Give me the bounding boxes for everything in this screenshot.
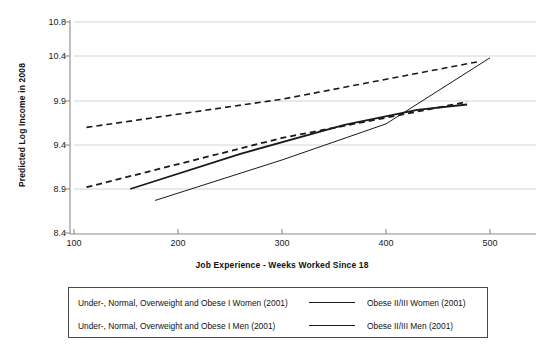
series-lines	[86, 58, 490, 201]
legend-row: Under-, Normal, Overweight and Obese I M…	[69, 313, 487, 338]
chart-figure: Predicted Log Income in 2008 10.8 10.4 9…	[0, 0, 552, 354]
tick-marks	[65, 22, 490, 234]
series-line	[130, 105, 467, 189]
legend-line-sample-solid-thick	[305, 302, 359, 304]
legend-line-sample-solid-thin	[305, 325, 359, 326]
legend-row: Under-, Normal, Overweight and Obese I W…	[69, 290, 487, 315]
legend-label-right: Obese II/III Women (2001)	[359, 298, 487, 308]
axis-lines	[70, 20, 536, 234]
series-line	[155, 58, 490, 201]
legend-label-left: Under-, Normal, Overweight and Obese I M…	[69, 321, 305, 331]
legend: Under-, Normal, Overweight and Obese I W…	[68, 287, 488, 338]
series-line	[86, 61, 479, 127]
gridlines	[74, 22, 536, 189]
legend-label-right: Obese II/III Men (2001)	[359, 321, 487, 331]
legend-label-left: Under-, Normal, Overweight and Obese I W…	[69, 298, 305, 308]
